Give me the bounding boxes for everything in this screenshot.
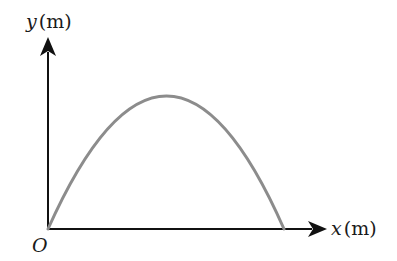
y-axis-label: y(m) xyxy=(25,10,72,32)
trajectory-curve xyxy=(48,96,284,229)
x-axis-label: x(m) xyxy=(331,217,377,239)
origin-label: O xyxy=(32,234,48,256)
trajectory-diagram: y(m) x(m) O xyxy=(0,0,397,261)
